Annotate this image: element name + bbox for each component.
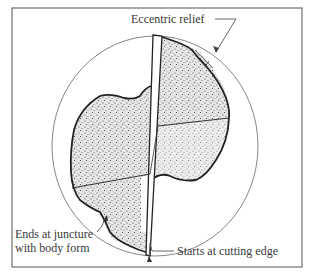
label-eccentric-relief: Eccentric relief [131,13,205,26]
label-starts-at-cutting-edge: Starts at cutting edge [177,245,278,258]
label-ends-at-juncture: Ends at juncture [15,228,93,241]
label-with-body-form: with body form [15,242,90,255]
arrowhead-eccentric [213,46,219,53]
land-lower-right [150,118,229,181]
drill-relief-diagram: Eccentric relief Ends at juncture with b… [0,0,310,277]
eccentric-relief-leader [215,19,236,52]
land-upper-left [71,86,151,188]
ends-leader [97,216,106,232]
